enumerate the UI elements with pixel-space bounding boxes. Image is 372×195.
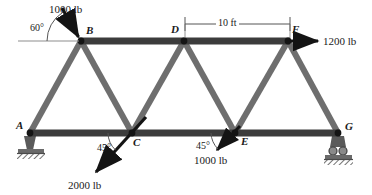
- member-diagonal-E-F: [235, 41, 288, 133]
- truss-web-members: [30, 41, 338, 133]
- node-label-E: E: [241, 136, 248, 147]
- member-diagonal-C-D: [132, 41, 184, 133]
- member-diagonal-A-B: [30, 41, 81, 133]
- node-label-C: C: [133, 137, 140, 148]
- dimension-label-10ft: 10 ft: [216, 18, 239, 28]
- angle-label-45-at-E: 45°: [196, 141, 210, 151]
- member-diagonal-B-C: [81, 41, 132, 133]
- support-pin-A: [17, 136, 45, 159]
- joint-D: [181, 38, 188, 45]
- node-label-F: F: [292, 24, 299, 35]
- node-label-A: A: [16, 120, 23, 131]
- load-label-at-C: 2000 lb: [68, 180, 101, 191]
- angle-arc-60: [47, 13, 63, 42]
- node-label-G: G: [345, 121, 353, 132]
- load-label-at-F: 1200 lb: [323, 36, 356, 47]
- angle-label-60-at-B: 60°: [30, 23, 44, 33]
- truss-diagram: A B C D E F G 1000 lb 60° 1200 lb 2000 l…: [0, 0, 372, 195]
- node-label-B: B: [86, 25, 93, 36]
- member-diagonal-D-E: [184, 41, 235, 133]
- joint-A: [27, 130, 34, 137]
- joint-G: [335, 130, 342, 137]
- load-label-at-B: 1000 lb: [49, 4, 82, 15]
- member-diagonal-F-G: [288, 41, 338, 133]
- node-label-D: D: [171, 24, 179, 35]
- support-roller-G: [324, 136, 353, 165]
- truss-drawing-canvas: [0, 0, 372, 195]
- angle-label-45-at-C: 45°: [97, 143, 111, 153]
- load-label-at-E: 1000 lb: [194, 155, 227, 166]
